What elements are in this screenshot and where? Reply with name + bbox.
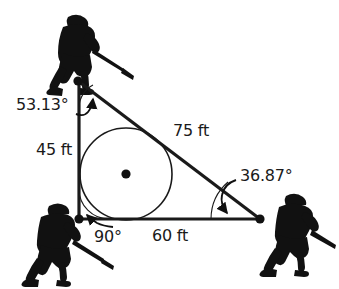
incircle-center-point (121, 169, 130, 178)
triangle-shape (78, 81, 260, 219)
label-side-bottom: 60 ft (152, 228, 188, 244)
hockey-triangle-figure: 53.13° 45 ft 75 ft 36.87° 90° 60 ft (0, 0, 339, 289)
vertex-bottom-right-point (255, 214, 264, 223)
vertex-bottom-left-point (74, 214, 83, 223)
label-angle-bottom-left: 90° (94, 229, 122, 245)
label-angle-right: 36.87° (240, 168, 293, 184)
player-bottom-right-icon (259, 194, 336, 277)
label-side-hypotenuse: 75 ft (173, 123, 209, 139)
label-side-left: 45 ft (36, 142, 72, 158)
player-top-left-icon (46, 15, 134, 96)
label-angle-top: 53.13° (16, 97, 69, 113)
triangle-side-hypotenuse (78, 81, 260, 219)
vertex-top-point (73, 76, 82, 85)
